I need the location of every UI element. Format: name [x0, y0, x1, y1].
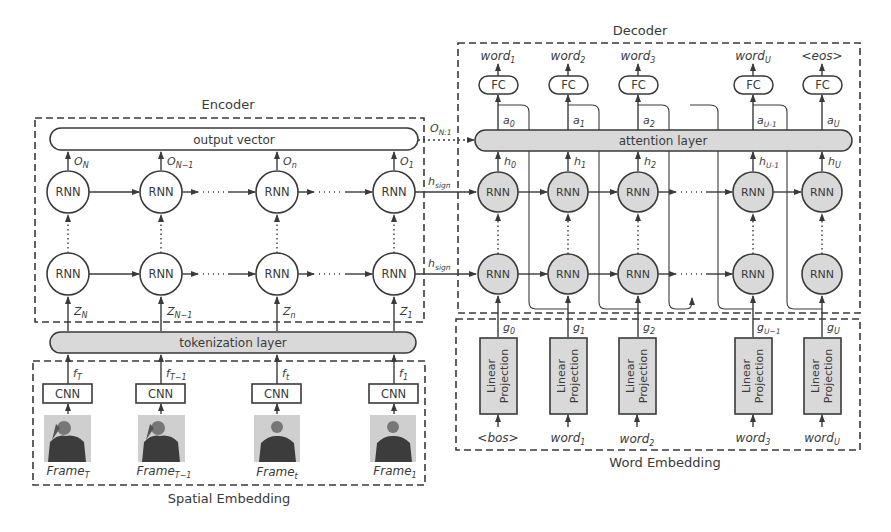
- a-label-0: a0: [503, 114, 515, 129]
- rnn-label: RNN: [741, 186, 765, 199]
- o-label-2: On: [283, 155, 297, 170]
- rnn-label: RNN: [556, 268, 580, 281]
- a-label-3: aU-1: [757, 114, 777, 129]
- frame-image-0: [44, 415, 91, 462]
- h-label-0: h0: [504, 155, 516, 170]
- input-word-3: word3: [736, 431, 771, 447]
- cnn-label: CNN: [55, 387, 80, 401]
- encoder-rnn-row-bottom: RNN RNN RNN RNN: [47, 253, 415, 295]
- word-embedding-block: Linear Projection Linear Projection Line…: [456, 319, 860, 470]
- rnn-label: RNN: [810, 268, 834, 281]
- rnn-label: RNN: [381, 185, 406, 199]
- h-label-4: hU: [828, 155, 841, 170]
- attention-layer-label: attention layer: [619, 134, 708, 148]
- output-word-1: word2: [551, 49, 586, 65]
- projection-label: Linear: [809, 358, 822, 393]
- a-label-4: aU: [827, 114, 840, 129]
- rnn-label: RNN: [381, 267, 406, 281]
- rnn-label: RNN: [148, 185, 173, 199]
- fc-label: FC: [561, 78, 576, 92]
- rnn-label: RNN: [264, 185, 289, 199]
- f-label-3: f1: [399, 367, 408, 382]
- g-label-3: gU−1: [757, 321, 781, 336]
- output-vector-label: output vector: [193, 133, 275, 147]
- rnn-label: RNN: [556, 186, 580, 199]
- cnn-label: CNN: [264, 387, 289, 401]
- z-label-0: ZN: [73, 305, 88, 320]
- h-label-3: hU-1: [759, 155, 779, 170]
- cnn-label: CNN: [148, 387, 173, 401]
- fc-label: FC: [746, 78, 761, 92]
- rnn-label: RNN: [148, 267, 173, 281]
- frame-image-3: [370, 415, 416, 462]
- h-label-1: h1: [574, 155, 586, 170]
- projection-label: Projection: [822, 349, 835, 403]
- projection-label: Projection: [568, 349, 581, 403]
- cnn-label: CNN: [381, 387, 406, 401]
- word-embedding-title: Word Embedding: [609, 455, 720, 470]
- rnn-label: RNN: [810, 186, 834, 199]
- g-label-2: g2: [643, 321, 655, 336]
- o-label-0: ON: [74, 155, 89, 170]
- o-label-3: O1: [400, 155, 414, 170]
- decoder-block: Decoder word1 word2 word3 wordU <eos> FC: [458, 23, 860, 337]
- a-label-2: a2: [643, 114, 655, 129]
- input-word-1: word1: [551, 431, 586, 447]
- z-label-3: Z1: [399, 305, 413, 320]
- projection-label: Projection: [498, 349, 511, 403]
- f-label-0: fT: [73, 367, 83, 382]
- projection-label: Linear: [485, 358, 498, 393]
- projection-label: Linear: [624, 358, 637, 393]
- encoder-title: Encoder: [201, 97, 255, 112]
- f-label-1: fT−1: [166, 367, 187, 382]
- rnn-label: RNN: [264, 267, 289, 281]
- g-label-0: g0: [503, 321, 515, 336]
- output-word-0: word1: [481, 49, 516, 65]
- frame-image-2: [254, 415, 300, 462]
- output-word-4: <eos>: [801, 49, 842, 63]
- f-label-2: ft: [282, 367, 290, 382]
- a-label-1: a1: [573, 114, 585, 129]
- rnn-label: RNN: [486, 186, 510, 199]
- h-sign-label-top: hsign: [428, 175, 451, 190]
- g-label-4: gU: [827, 321, 840, 336]
- h-sign-label-bottom: hsign: [428, 257, 451, 272]
- tokenization-layer-label: tokenization layer: [179, 336, 287, 350]
- rnn-label: RNN: [626, 268, 650, 281]
- output-word-3: wordU: [735, 49, 771, 65]
- rnn-label: RNN: [741, 268, 765, 281]
- o-link-label: ON:1: [430, 122, 452, 137]
- frame-label-2: Framet: [256, 465, 298, 481]
- spatial-embedding-title: Spatial Embedding: [168, 491, 291, 506]
- frame-label-3: Frame1: [373, 464, 416, 480]
- spatial-embedding-block: fT fT−1 ft f1 CNN CNN CNN CNN: [33, 355, 425, 506]
- rnn-label: RNN: [55, 267, 80, 281]
- input-word-4: wordU: [804, 431, 840, 447]
- spatial-embedding-boundary: [33, 361, 425, 485]
- frame-image-1: [138, 415, 185, 462]
- encoder-rnn-row-top: RNN RNN RNN RNN: [47, 171, 415, 213]
- projection-label: Linear: [555, 358, 568, 393]
- frame-label-0: FrameT: [46, 464, 90, 480]
- input-word-0: <bos>: [477, 431, 518, 445]
- encoder-block: Encoder output vector ON ON−1 On O1 RNN …: [35, 97, 424, 353]
- fc-label: FC: [631, 78, 646, 92]
- rnn-label: RNN: [55, 185, 80, 199]
- rnn-label: RNN: [486, 268, 510, 281]
- projection-label: Projection: [637, 349, 650, 403]
- z-label-1: ZN−1: [166, 305, 192, 320]
- seq2seq-architecture-diagram: Encoder output vector ON ON−1 On O1 RNN …: [0, 0, 891, 532]
- rnn-label: RNN: [626, 186, 650, 199]
- projection-label: Projection: [753, 349, 766, 403]
- fc-label: FC: [815, 78, 830, 92]
- frame-label-1: FrameT−1: [137, 464, 192, 480]
- input-word-2: word2: [620, 432, 655, 448]
- output-word-2: word3: [621, 49, 656, 65]
- fc-label: FC: [491, 78, 506, 92]
- h-label-2: h2: [644, 155, 656, 170]
- projection-label: Linear: [740, 358, 753, 393]
- g-label-1: g1: [573, 321, 585, 336]
- o-label-1: ON−1: [167, 155, 193, 170]
- z-label-2: Zn: [282, 305, 296, 320]
- decoder-title: Decoder: [613, 23, 668, 38]
